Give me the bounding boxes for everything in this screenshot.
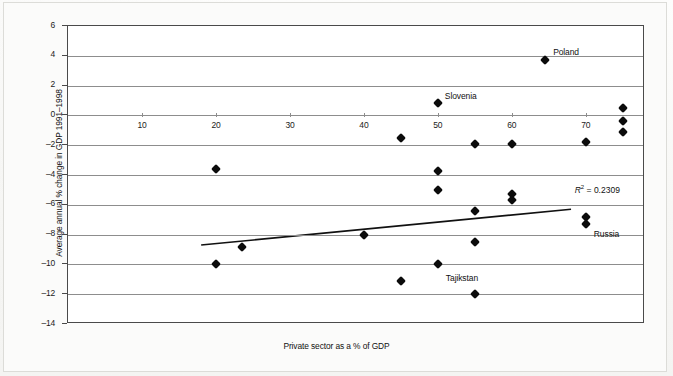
y-axis-tick-label: –10 (29, 258, 55, 268)
x-axis-tick-mark (216, 113, 217, 117)
gridline-horizontal (68, 86, 643, 87)
y-axis-tick-label: 6 (29, 20, 55, 30)
x-axis-tick-label: 20 (203, 120, 229, 130)
y-axis-tick-label: 4 (29, 49, 55, 59)
data-point[interactable] (540, 55, 550, 65)
y-axis-tick-mark (62, 25, 67, 26)
y-axis-tick-mark (62, 55, 67, 56)
x-axis-tick-label: 40 (351, 120, 377, 130)
y-axis-tick-mark (62, 293, 67, 294)
y-axis-tick-label: 0 (29, 109, 55, 119)
y-axis-tick-mark (62, 85, 67, 86)
data-point[interactable] (470, 289, 480, 299)
data-point[interactable] (396, 133, 406, 143)
y-axis-tick-mark (62, 263, 67, 264)
x-axis-tick-label: 30 (277, 120, 303, 130)
x-axis-tick-label: 50 (425, 120, 451, 130)
data-point[interactable] (470, 139, 480, 149)
data-point-label: Tajikstan (446, 273, 478, 283)
data-point[interactable] (433, 166, 443, 176)
x-axis-title: Private sector as a % of GDP (0, 341, 673, 351)
x-axis-tick-mark (438, 113, 439, 117)
x-axis-tick-mark (512, 113, 513, 117)
y-axis-tick-label: –12 (29, 288, 55, 298)
y-axis-tick-mark (62, 323, 67, 324)
data-point[interactable] (396, 276, 406, 286)
data-point[interactable] (507, 139, 517, 149)
gridline-horizontal (68, 115, 643, 116)
data-point[interactable] (433, 259, 443, 269)
gridline-horizontal (68, 205, 643, 206)
gridline-horizontal (68, 175, 643, 176)
data-point-label: Poland (553, 47, 579, 57)
data-point[interactable] (433, 99, 443, 109)
y-axis-tick-label: –4 (29, 169, 55, 179)
y-axis-tick-label: –14 (29, 318, 55, 328)
data-point[interactable] (211, 259, 221, 269)
x-axis-tick-mark (290, 113, 291, 117)
x-axis-tick-label: 60 (499, 120, 525, 130)
y-axis-tick-mark (62, 174, 67, 175)
x-axis-tick-label: 70 (573, 120, 599, 130)
y-axis-tick-mark (62, 114, 67, 115)
data-point[interactable] (618, 116, 628, 126)
y-axis-tick-label: –2 (29, 139, 55, 149)
data-point[interactable] (507, 195, 517, 205)
data-point[interactable] (211, 164, 221, 174)
gridline-horizontal (68, 235, 643, 236)
data-point[interactable] (618, 127, 628, 137)
scatter-chart-figure: Average annual % change in GDP 1991–1998… (0, 0, 673, 376)
y-axis-tick-mark (62, 144, 67, 145)
data-point[interactable] (618, 103, 628, 113)
data-point[interactable] (470, 206, 480, 216)
x-axis-tick-mark (364, 113, 365, 117)
r-squared-value: = 0.2309 (584, 185, 620, 195)
data-point[interactable] (470, 237, 480, 247)
data-point[interactable] (237, 242, 247, 252)
gridline-horizontal (68, 294, 643, 295)
x-axis-tick-label: 10 (129, 120, 155, 130)
y-axis-tick-mark (62, 204, 67, 205)
plot-area: 10203040506070PolandSloveniaTajikstanRus… (67, 25, 644, 323)
data-point[interactable] (581, 219, 591, 229)
data-point-label: Russia (594, 229, 619, 239)
y-axis-tick-label: 2 (29, 79, 55, 89)
r-squared-annotation: R2 = 0.2309 (575, 184, 620, 195)
y-axis-tick-label: –6 (29, 198, 55, 208)
x-axis-tick-mark (586, 113, 587, 117)
gridline-horizontal (68, 145, 643, 146)
data-point-label: Slovenia (445, 91, 477, 101)
gridline-horizontal (68, 264, 643, 265)
x-axis-tick-mark (142, 113, 143, 117)
y-axis-title: Average annual % change in GDP 1991–1998 (54, 58, 64, 288)
y-axis-tick-mark (62, 234, 67, 235)
data-point[interactable] (433, 185, 443, 195)
y-axis-tick-label: –8 (29, 228, 55, 238)
data-point[interactable] (359, 230, 369, 240)
